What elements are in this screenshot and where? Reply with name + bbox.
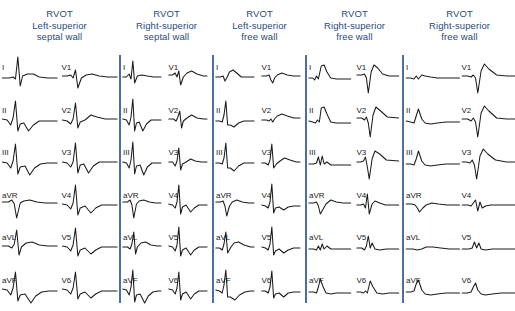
ecg-lead-v5: V5 xyxy=(260,222,306,265)
lead-label-avf: aVF xyxy=(406,276,421,285)
ecg-lead-i: I xyxy=(404,52,460,95)
lead-label-iii: III xyxy=(2,148,9,157)
lead-label-ii: II xyxy=(216,106,220,115)
ecg-lead-avf: aVF xyxy=(404,265,460,308)
ecg-lead-v4: V4 xyxy=(167,180,213,223)
lead-label-iii: III xyxy=(309,148,316,157)
lead-label-avf: aVF xyxy=(123,276,138,285)
lead-waveform-ii xyxy=(121,95,167,138)
lead-label-v2: V2 xyxy=(462,106,472,115)
ecg-panel-4: RVOTRight-superiorfree wallIV1IIV2IIIV3a… xyxy=(307,0,402,311)
lead-label-v4: V4 xyxy=(357,191,367,200)
lead-label-v2: V2 xyxy=(357,106,367,115)
panel-title: RVOT xyxy=(0,8,119,20)
lead-waveform-ii xyxy=(307,95,355,138)
lead-label-i: I xyxy=(216,63,218,72)
ecg-lead-avr: aVR xyxy=(121,180,167,223)
ecg-lead-i: I xyxy=(214,52,260,95)
ecg-lead-iii: III xyxy=(307,137,355,180)
panel-title: RVOT xyxy=(404,8,515,20)
ecg-lead-v2: V2 xyxy=(60,95,120,138)
ecg-lead-v3: V3 xyxy=(260,137,306,180)
panel-site-line2: free wall xyxy=(307,31,402,43)
lead-waveform-ii xyxy=(214,95,260,138)
lead-waveform-ii xyxy=(0,95,60,138)
lead-label-v5: V5 xyxy=(357,233,367,242)
panel-title: RVOT xyxy=(214,8,305,20)
lead-label-v1: V1 xyxy=(62,63,72,72)
lead-label-v6: V6 xyxy=(262,276,272,285)
lead-label-v1: V1 xyxy=(169,63,179,72)
lead-waveform-v3 xyxy=(60,137,120,180)
ecg-lead-v6: V6 xyxy=(460,265,515,308)
lead-waveform-v2 xyxy=(60,95,120,138)
lead-label-v1: V1 xyxy=(262,63,272,72)
ecg-lead-v6: V6 xyxy=(60,265,120,308)
ecg-lead-v4: V4 xyxy=(260,180,306,223)
lead-waveform-avf xyxy=(121,265,167,308)
ecg-lead-avf: aVF xyxy=(0,265,60,308)
panel-site-line1: Right-superior xyxy=(307,20,402,32)
lead-waveform-v4 xyxy=(355,180,403,223)
ecg-lead-v3: V3 xyxy=(355,137,403,180)
lead-waveform-v1 xyxy=(167,52,213,95)
ecg-lead-ii: II xyxy=(0,95,60,138)
ecg-lead-v1: V1 xyxy=(355,52,403,95)
ecg-lead-iii: III xyxy=(121,137,167,180)
lead-label-v6: V6 xyxy=(62,276,72,285)
panel-site-line1: Left-superior xyxy=(214,20,305,32)
lead-waveform-v3 xyxy=(260,137,306,180)
ecg-lead-v5: V5 xyxy=(355,222,403,265)
lead-waveform-avr xyxy=(404,180,460,223)
ecg-lead-avl: aVL xyxy=(307,222,355,265)
lead-label-avf: aVF xyxy=(216,276,231,285)
ecg-lead-v2: V2 xyxy=(260,95,306,138)
lead-waveform-v6 xyxy=(355,265,403,308)
ecg-lead-avr: aVR xyxy=(404,180,460,223)
lead-waveform-v4 xyxy=(460,180,515,223)
ecg-lead-avf: aVF xyxy=(214,265,260,308)
lead-label-iii: III xyxy=(123,148,130,157)
ecg-lead-i: I xyxy=(0,52,60,95)
ecg-lead-avr: aVR xyxy=(0,180,60,223)
ecg-lead-v4: V4 xyxy=(460,180,515,223)
ecg-lead-v5: V5 xyxy=(60,222,120,265)
lead-label-v1: V1 xyxy=(357,63,367,72)
lead-waveform-v4 xyxy=(260,180,306,223)
lead-label-v3: V3 xyxy=(262,148,272,157)
ecg-panel-2: RVOTRight-superiorseptal wallIV1IIV2IIIV… xyxy=(121,0,212,311)
lead-label-iii: III xyxy=(406,148,413,157)
lead-waveform-iii xyxy=(121,137,167,180)
ecg-lead-ii: II xyxy=(121,95,167,138)
lead-label-v4: V4 xyxy=(169,191,179,200)
lead-waveform-v2 xyxy=(167,95,213,138)
lead-label-ii: II xyxy=(406,106,410,115)
lead-waveform-ii xyxy=(404,95,460,138)
lead-waveform-avr xyxy=(214,180,260,223)
lead-waveform-v2 xyxy=(355,95,403,138)
panel-title: RVOT xyxy=(121,8,212,20)
lead-waveform-iii xyxy=(214,137,260,180)
lead-label-avl: aVL xyxy=(309,233,323,242)
ecg-lead-v1: V1 xyxy=(167,52,213,95)
lead-label-v4: V4 xyxy=(462,191,472,200)
lead-waveform-v1 xyxy=(460,52,515,95)
lead-label-ii: II xyxy=(309,106,313,115)
ecg-lead-v2: V2 xyxy=(167,95,213,138)
ecg-lead-avf: aVF xyxy=(307,265,355,308)
ecg-trace-area: IV1IIV2IIIV3aVRV4aVLV5aVFV6 xyxy=(214,52,305,307)
lead-waveform-avl xyxy=(0,222,60,265)
ecg-trace-area: IV1IIV2IIIV3aVRV4aVLV5aVFV6 xyxy=(0,52,119,307)
lead-label-avf: aVF xyxy=(309,276,324,285)
lead-label-avr: aVR xyxy=(406,191,422,200)
lead-waveform-v1 xyxy=(355,52,403,95)
lead-waveform-i xyxy=(214,52,260,95)
lead-label-avr: aVR xyxy=(216,191,232,200)
panel-header-1: RVOTLeft-superiorseptal wall xyxy=(0,8,119,43)
lead-waveform-avl xyxy=(214,222,260,265)
lead-waveform-i xyxy=(121,52,167,95)
ecg-lead-ii: II xyxy=(214,95,260,138)
lead-label-v3: V3 xyxy=(169,148,179,157)
ecg-trace-area: IV1IIV2IIIV3aVRV4aVLV5aVFV6 xyxy=(404,52,515,307)
ecg-lead-avr: aVR xyxy=(307,180,355,223)
